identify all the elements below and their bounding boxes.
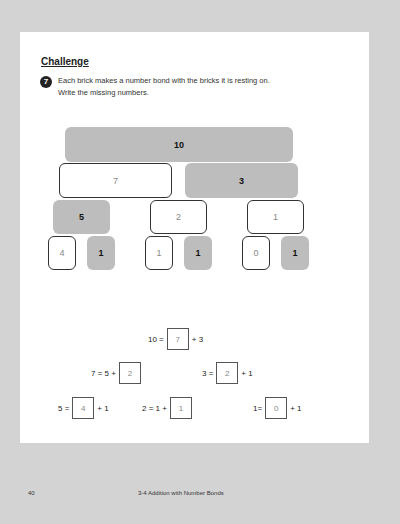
equation: 2 = 1 + 1 xyxy=(142,397,195,419)
brick-answer[interactable]: 4 xyxy=(48,236,76,270)
brick: 3 xyxy=(185,163,298,198)
page-number: 40 xyxy=(28,490,35,496)
section-heading: Challenge xyxy=(41,56,89,67)
answer-box[interactable]: 2 xyxy=(216,362,238,384)
equation-left: 10 = xyxy=(148,335,164,344)
question-number-badge: 7 xyxy=(40,76,52,88)
equation: 7 = 5 + 2 xyxy=(91,362,144,384)
equation-left: 3 = xyxy=(202,369,213,378)
brick-answer[interactable]: 1 xyxy=(247,200,304,234)
instruction-line: Write the missing numbers. xyxy=(58,87,270,99)
brick: 1 xyxy=(184,236,212,270)
brick-top: 10 xyxy=(65,127,293,162)
equation: 5 = 4 + 1 xyxy=(58,397,109,419)
equation: 1= 0 + 1 xyxy=(253,397,301,419)
brick-answer[interactable]: 0 xyxy=(242,236,270,270)
equation-left: 2 = 1 + xyxy=(142,404,167,413)
equation-right: + 1 xyxy=(241,369,252,378)
question-instructions: Each brick makes a number bond with the … xyxy=(58,75,270,99)
equation-left: 7 = 5 + xyxy=(91,369,116,378)
answer-box[interactable]: 0 xyxy=(265,397,287,419)
equation-left: 5 = xyxy=(58,404,69,413)
brick: 1 xyxy=(87,236,115,270)
brick-answer[interactable]: 2 xyxy=(150,200,207,234)
answer-box[interactable]: 1 xyxy=(170,397,192,419)
equation: 10 = 7 + 3 xyxy=(148,328,203,350)
equation: 3 = 2 + 1 xyxy=(202,362,253,384)
brick: 5 xyxy=(53,200,110,234)
equation-left: 1= xyxy=(253,404,262,413)
answer-box[interactable]: 4 xyxy=(72,397,94,419)
brick-answer[interactable]: 7 xyxy=(59,163,172,198)
equation-right: + 1 xyxy=(97,404,108,413)
brick: 1 xyxy=(281,236,309,270)
answer-box[interactable]: 7 xyxy=(167,328,189,350)
equation-right: + 3 xyxy=(192,335,203,344)
equation-right: + 1 xyxy=(290,404,301,413)
answer-box[interactable]: 2 xyxy=(119,362,141,384)
chapter-title: 3-4 Addition with Number Bonds xyxy=(138,490,224,496)
instruction-line: Each brick makes a number bond with the … xyxy=(58,75,270,87)
brick-answer[interactable]: 1 xyxy=(145,236,173,270)
